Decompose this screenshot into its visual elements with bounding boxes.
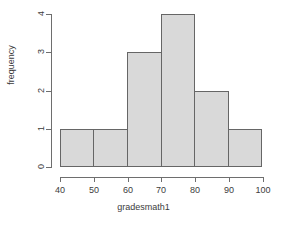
histogram-bar bbox=[93, 129, 128, 167]
y-axis-tick-label: 1 bbox=[0, 124, 44, 133]
histogram-bar bbox=[194, 91, 229, 168]
y-axis-tick-label-text: 4 bbox=[37, 11, 46, 16]
y-axis-tick bbox=[46, 129, 51, 130]
y-axis-tick bbox=[46, 167, 51, 168]
histogram-bar bbox=[127, 52, 162, 167]
x-axis-tick bbox=[195, 177, 196, 182]
y-axis-tick-label: 4 bbox=[0, 9, 44, 18]
histogram-bar bbox=[228, 129, 262, 167]
histogram-bar bbox=[60, 129, 94, 167]
y-axis-tick-label-text: 0 bbox=[37, 164, 46, 169]
y-axis-line bbox=[51, 14, 52, 168]
x-axis-line bbox=[60, 177, 264, 178]
histogram-bar bbox=[161, 14, 195, 167]
y-axis-tick bbox=[46, 14, 51, 15]
y-axis-title: frequency bbox=[6, 30, 16, 100]
x-axis-tick bbox=[263, 177, 264, 182]
x-axis-tick bbox=[128, 177, 129, 182]
x-axis-tick bbox=[229, 177, 230, 182]
histogram-chart: 0 1 2 3 4 frequency 40 50 60 70 80 90 10… bbox=[0, 0, 287, 227]
x-axis-tick bbox=[60, 177, 61, 182]
y-axis-tick-label: 0 bbox=[0, 162, 44, 171]
plot-area bbox=[60, 14, 263, 167]
x-axis-title: gradesmath1 bbox=[0, 202, 287, 213]
y-axis-tick-label-text: 3 bbox=[37, 49, 46, 54]
x-axis-tick-label: 100 bbox=[243, 185, 283, 195]
x-axis-tick bbox=[161, 177, 162, 182]
y-axis-tick-label-text: 2 bbox=[37, 88, 46, 93]
y-axis-tick bbox=[46, 91, 51, 92]
x-axis-tick bbox=[94, 177, 95, 182]
y-axis-tick bbox=[46, 52, 51, 53]
y-axis-tick-label-text: 1 bbox=[37, 126, 46, 131]
